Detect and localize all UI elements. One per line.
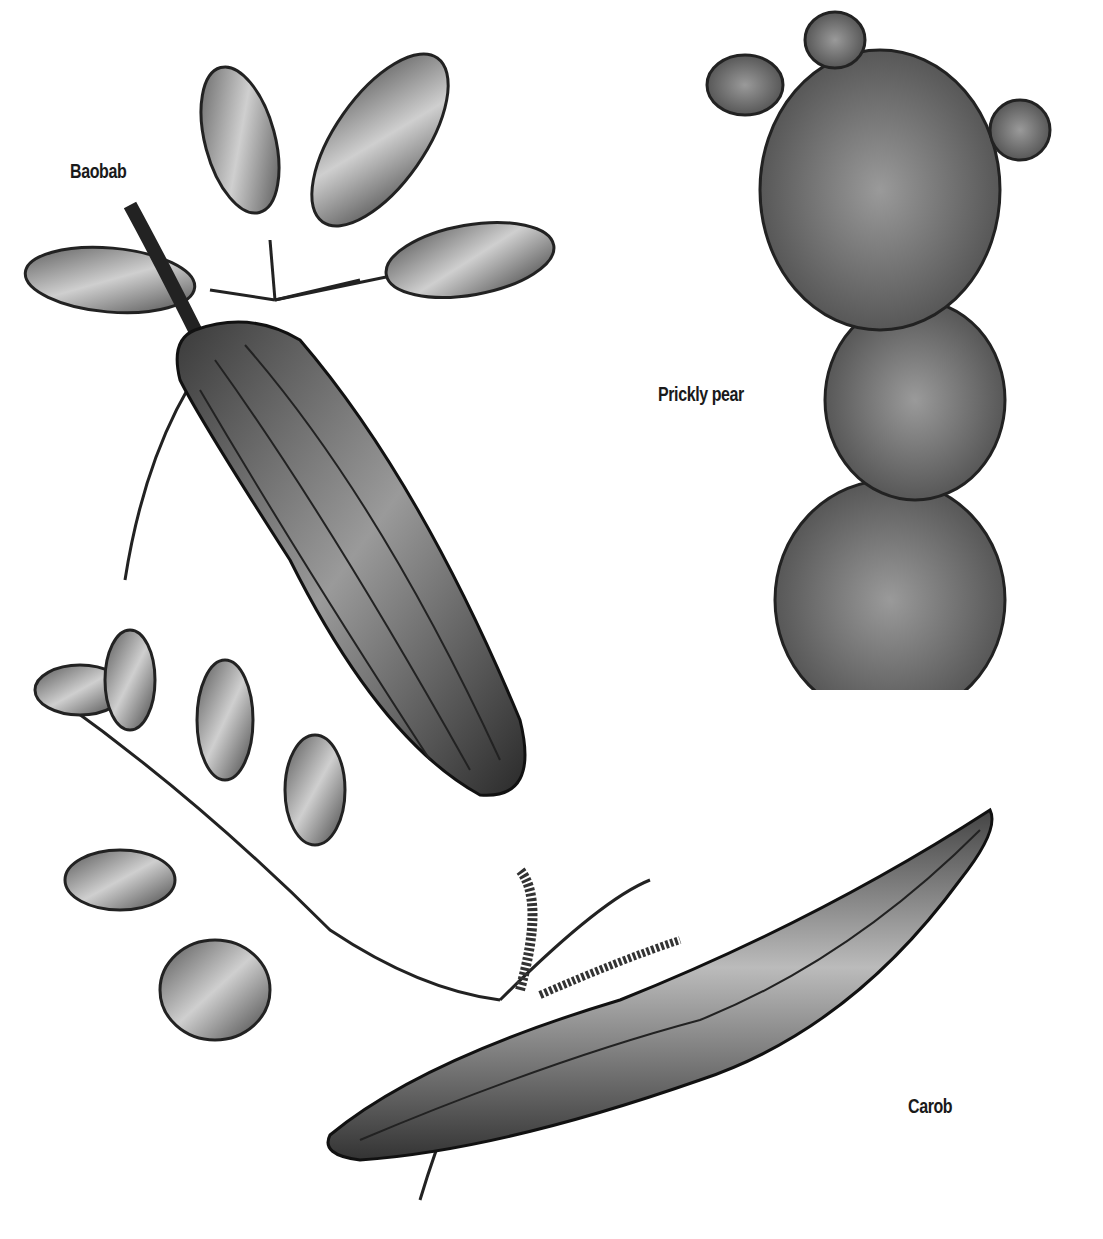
label-carob: Carob [908, 1095, 952, 1118]
label-baobab: Baobab [70, 160, 126, 183]
prickly-pear-plant [707, 12, 1050, 730]
plant-drawings [0, 0, 1103, 1239]
label-prickly-pear: Prickly pear [658, 383, 744, 406]
botanical-illustration: Baobab Prickly pear Carob [0, 0, 1103, 1239]
